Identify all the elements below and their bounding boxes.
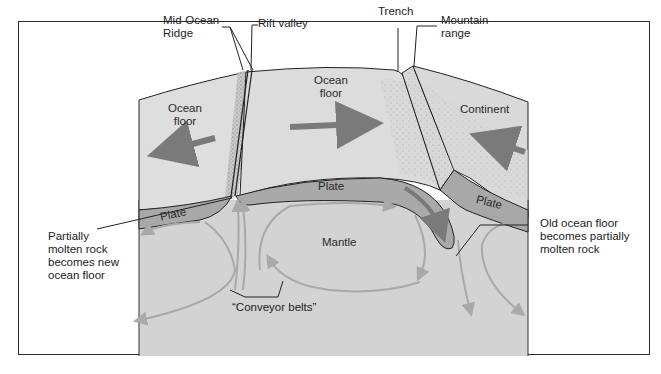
- label-line: Old ocean floor: [540, 217, 629, 230]
- label-rift-valley: Rift valley: [258, 17, 308, 30]
- label-line: Mid-Ocean: [163, 14, 219, 27]
- label-line: Ridge: [163, 27, 219, 40]
- label-line: molten rock: [540, 243, 629, 256]
- label-line: Mountain: [441, 14, 488, 27]
- label-partially-molten-rock: Partially molten rock becomes new ocean …: [48, 230, 119, 282]
- label-ocean-floor-left: Ocean floor: [168, 102, 202, 128]
- label-ocean-floor-center: Ocean floor: [314, 74, 348, 100]
- label-line: becomes partially: [540, 230, 629, 243]
- label-mountain-range: Mountain range: [441, 14, 488, 40]
- label-line: floor: [168, 115, 202, 128]
- mantle-region: [139, 200, 528, 356]
- label-line: Partially: [48, 230, 119, 243]
- label-line: Ocean: [168, 102, 202, 115]
- label-line: floor: [314, 87, 348, 100]
- label-continent: Continent: [460, 103, 509, 116]
- label-mantle: Mantle: [322, 236, 357, 249]
- label-old-ocean-floor: Old ocean floor becomes partially molten…: [540, 217, 629, 256]
- label-line: range: [441, 27, 488, 40]
- label-line: molten rock: [48, 243, 119, 256]
- label-mid-ocean-ridge: Mid-Ocean Ridge: [163, 14, 219, 40]
- label-trench: Trench: [378, 5, 413, 18]
- label-line: ocean floor: [48, 269, 119, 282]
- label-plate-center: Plate: [318, 180, 344, 193]
- label-conveyor-belts: “Conveyor belts”: [232, 301, 316, 314]
- label-line: becomes new: [48, 256, 119, 269]
- label-line: Ocean: [314, 74, 348, 87]
